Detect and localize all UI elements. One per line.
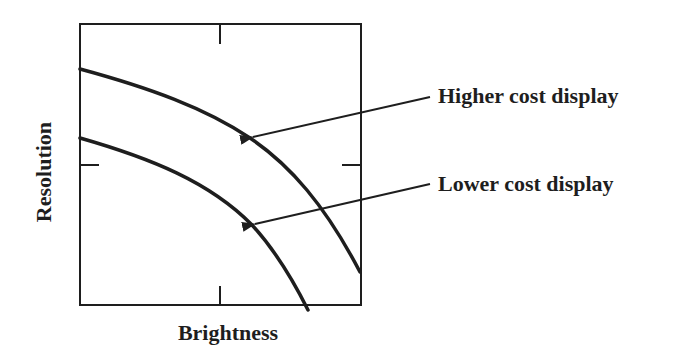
y-axis-label: Resolution	[31, 122, 56, 222]
higher-cost-arrow	[253, 97, 430, 137]
tradeoff-diagram: Higher cost display Lower cost display B…	[0, 0, 692, 357]
lower-cost-curve	[80, 138, 308, 310]
higher-cost-label: Higher cost display	[438, 83, 619, 108]
x-axis-label: Brightness	[178, 320, 279, 345]
lower-cost-arrow	[255, 184, 430, 224]
higher-cost-curve	[80, 69, 360, 272]
plot-frame	[80, 24, 361, 305]
lower-cost-label: Lower cost display	[438, 171, 614, 196]
